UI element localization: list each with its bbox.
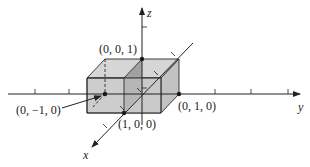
point-0-0-1	[140, 57, 144, 61]
label-0-0-1: (0, 0, 1)	[99, 42, 137, 56]
label-0-neg1-0: (0, −1, 0)	[16, 103, 61, 117]
point-1-0-0	[122, 111, 126, 115]
point-0-neg1-0	[103, 92, 107, 96]
label-0-1-0: (0, 1, 0)	[178, 99, 216, 113]
z-axis-label: z	[146, 6, 152, 20]
point-0-1-0	[177, 92, 181, 96]
label-1-0-0: (1, 0, 0)	[118, 117, 156, 131]
x-axis-label: x	[82, 148, 89, 162]
box-3d-diagram: x y z (0, 0, 1) (0, 1, 0) (1, 0, 0) (0, …	[0, 0, 310, 167]
y-axis-label: y	[297, 100, 304, 114]
